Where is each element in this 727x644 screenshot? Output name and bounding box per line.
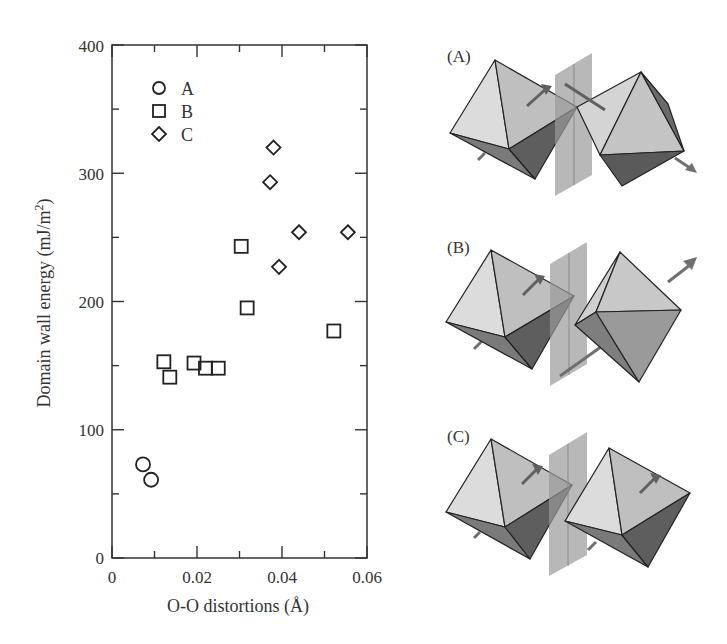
arrow-icon xyxy=(668,265,690,282)
y-axis-title: Domain wall energy (mJ/m2) xyxy=(32,198,55,407)
arrow-icon xyxy=(675,158,690,168)
y-tick-label: 400 xyxy=(79,37,105,56)
arrow-icon xyxy=(474,532,480,538)
data-point-b xyxy=(241,301,254,314)
data-points xyxy=(136,141,355,487)
data-point-c xyxy=(263,175,277,189)
legend-circle-icon xyxy=(153,82,165,94)
data-point-b xyxy=(157,355,170,368)
data-point-c xyxy=(272,260,286,274)
data-point-b xyxy=(212,362,225,375)
legend-label-b: B xyxy=(181,102,193,122)
plot-frame xyxy=(112,45,367,558)
y-tick-label: 100 xyxy=(79,421,105,440)
legend-square-icon xyxy=(153,105,165,117)
x-tick-label: 0.06 xyxy=(352,568,382,587)
octahedron-face xyxy=(600,151,684,186)
arrow-icon xyxy=(474,341,482,349)
panel-label-c: (C) xyxy=(447,427,470,446)
panel-label-a: (A) xyxy=(447,47,471,66)
figure: 0 100 200 300 400 0 0.02 0.04 0.06 O-O d… xyxy=(0,0,727,644)
legend-label-c: C xyxy=(181,125,193,145)
x-tick-label: 0.04 xyxy=(267,568,297,587)
y-tick-label: 300 xyxy=(79,165,105,184)
arrow-icon xyxy=(588,542,596,550)
arrow-icon xyxy=(478,153,485,160)
panel-c-octahedra: (C) xyxy=(446,427,690,576)
scatter-chart: 0 100 200 300 400 0 0.02 0.04 0.06 O-O d… xyxy=(32,37,382,617)
x-tick-label: 0 xyxy=(108,568,117,587)
data-point-c xyxy=(292,225,306,239)
panel-b-octahedra: (B) xyxy=(446,238,697,386)
axis-ticks xyxy=(112,45,367,558)
legend-label-a: A xyxy=(181,79,194,99)
y-tick-label: 0 xyxy=(96,549,105,568)
data-point-a xyxy=(144,473,158,487)
data-point-b xyxy=(163,371,176,384)
data-point-c xyxy=(267,141,281,155)
y-tick-label: 200 xyxy=(79,293,105,312)
legend-diamond-icon xyxy=(152,127,166,141)
data-point-b xyxy=(235,240,248,253)
data-point-c xyxy=(341,225,355,239)
data-point-b xyxy=(327,324,340,337)
x-tick-label: 0.02 xyxy=(182,568,212,587)
data-point-a xyxy=(136,457,150,471)
legend: A B C xyxy=(152,79,194,145)
panel-label-b: (B) xyxy=(447,238,470,257)
panel-a-octahedra: (A) xyxy=(447,47,697,196)
x-axis-title: O-O distortions (Å) xyxy=(167,596,309,617)
